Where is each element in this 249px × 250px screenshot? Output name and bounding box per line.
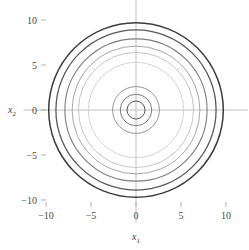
svg-text:x2: x2 [7, 104, 16, 118]
y-tick-label: 10 [27, 15, 37, 26]
plot-canvas: −10−50510−10−50510 x1 x2 [0, 0, 248, 250]
x-tick-label: 0 [134, 210, 139, 221]
figure-container: −10−50510−10−50510 x1 x2 [0, 0, 248, 250]
y-tick-label: −10 [21, 195, 37, 206]
y-tick-label: 0 [32, 105, 37, 116]
axis-lines-group [24, 0, 249, 223]
svg-text:x1: x1 [131, 231, 140, 245]
x-tick-label: −10 [38, 210, 54, 221]
x-axis-title: x1 [131, 231, 140, 245]
y-axis-title: x2 [7, 104, 16, 118]
y-tick-label: 5 [32, 60, 37, 71]
x-tick-label: 5 [179, 210, 184, 221]
x-tick-label: −5 [86, 210, 97, 221]
x-tick-label: 10 [221, 210, 231, 221]
y-tick-label: −5 [26, 150, 37, 161]
